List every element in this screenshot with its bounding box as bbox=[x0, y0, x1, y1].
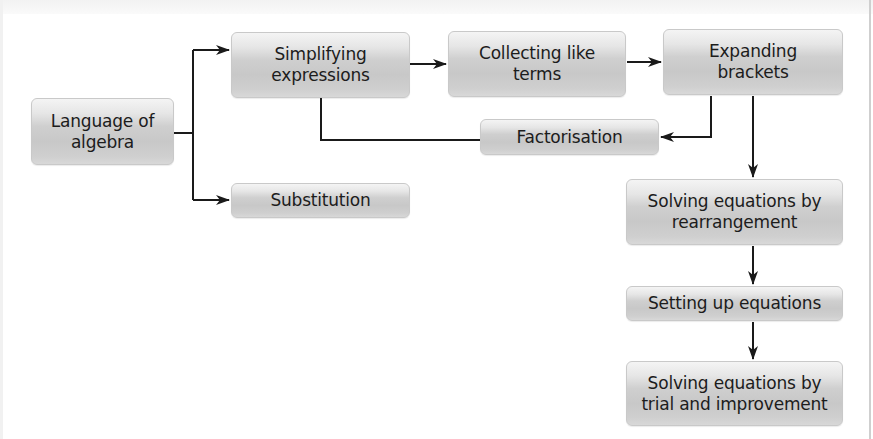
node-label: Setting up equations bbox=[648, 293, 821, 314]
node-simplifying-expressions: Simplifying expressions bbox=[231, 32, 410, 98]
node-label: Factorisation bbox=[517, 127, 623, 148]
edge-simplifying-factorisation bbox=[321, 98, 480, 140]
node-solving-by-rearrangement: Solving equations by rearrangement bbox=[626, 179, 843, 245]
node-solving-by-trial-and-improvement: Solving equations by trial and improveme… bbox=[626, 361, 843, 426]
node-label: Solving equations by trial and improveme… bbox=[641, 373, 827, 415]
node-label: Language of algebra bbox=[51, 111, 155, 153]
node-factorisation: Factorisation bbox=[480, 119, 659, 155]
edge-expanding-factorisation bbox=[661, 96, 711, 137]
top-band bbox=[0, 0, 873, 14]
node-label: Collecting like terms bbox=[479, 43, 595, 85]
node-collecting-like-terms: Collecting like terms bbox=[448, 31, 626, 97]
node-expanding-brackets: Expanding brackets bbox=[663, 29, 843, 95]
right-border bbox=[869, 0, 871, 439]
node-label: Simplifying expressions bbox=[271, 44, 369, 86]
node-label: Expanding brackets bbox=[709, 41, 797, 83]
node-substitution: Substitution bbox=[231, 183, 410, 218]
node-label: Solving equations by rearrangement bbox=[648, 191, 822, 233]
left-border bbox=[0, 0, 3, 439]
node-language-of-algebra: Language of algebra bbox=[31, 98, 174, 165]
node-label: Substitution bbox=[270, 190, 370, 211]
node-setting-up-equations: Setting up equations bbox=[626, 286, 843, 321]
